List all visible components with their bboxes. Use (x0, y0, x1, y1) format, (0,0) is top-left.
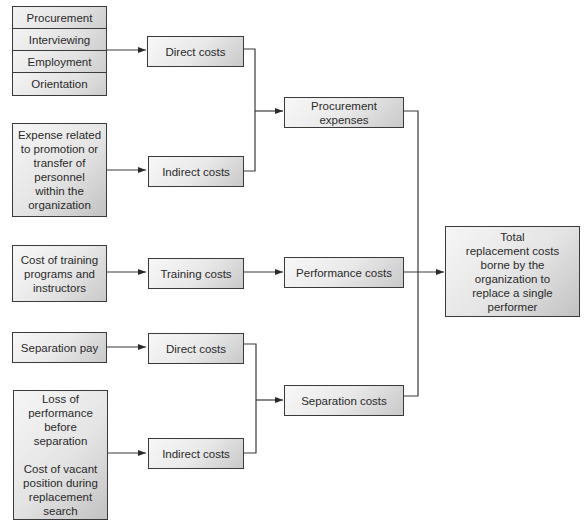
procurement-sources-stack: Procurement Interviewing Employment Orie… (12, 6, 107, 96)
indirect-costs-procurement-box: Indirect costs (148, 156, 244, 187)
total-replacement-costs-box: Total replacement costs borne by the org… (445, 226, 580, 317)
direct-costs-separation-box: Direct costs (148, 333, 244, 364)
loss-source-box: Loss of performance before separation Co… (13, 390, 108, 520)
direct-costs-procurement-box: Direct costs (147, 36, 244, 67)
training-source-box: Cost of training programs and instructor… (12, 245, 107, 302)
procurement-expenses-box: Procurement expenses (284, 97, 404, 128)
training-costs-box: Training costs (148, 258, 244, 289)
source-employment: Employment (13, 51, 106, 73)
source-interviewing: Interviewing (13, 29, 106, 51)
source-orientation: Orientation (13, 73, 106, 95)
performance-costs-box: Performance costs (284, 257, 404, 288)
separation-costs-box: Separation costs (284, 385, 404, 416)
expense-related-box: Expense related to promotion or transfer… (12, 123, 107, 217)
source-procurement: Procurement (13, 7, 106, 29)
indirect-costs-separation-box: Indirect costs (148, 438, 244, 469)
separation-pay-box: Separation pay (12, 332, 107, 363)
